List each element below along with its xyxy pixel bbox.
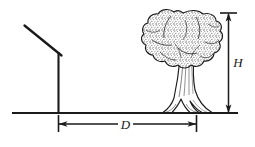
height-dimension-arrow: H <box>220 13 243 113</box>
tree-canopy <box>138 5 228 75</box>
slanted-sighting-arm <box>25 26 62 56</box>
height-label: H <box>232 55 243 70</box>
distance-dimension-arrow: D <box>59 115 197 132</box>
tree-height-diagram: H D <box>0 0 255 147</box>
tree <box>138 5 228 113</box>
distance-label: D <box>120 117 131 132</box>
sighting-instrument <box>25 26 62 113</box>
diagram-canvas: H D <box>0 0 255 147</box>
